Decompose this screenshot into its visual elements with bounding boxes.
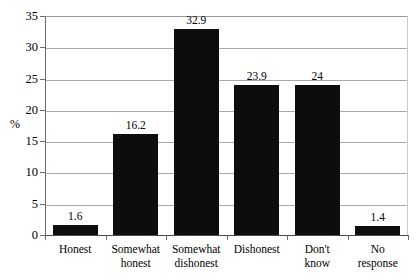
bar	[295, 85, 340, 235]
x-axis-tick-mark	[408, 235, 409, 240]
bar	[355, 226, 400, 235]
y-axis-tick-label: 30	[0, 41, 38, 54]
x-axis-tick-mark	[166, 235, 167, 240]
bar-value-label: 23.9	[227, 71, 288, 83]
y-axis-tick-label: 35	[0, 10, 38, 23]
bar-chart: % 35302520151050 1.616.232.923.9241.4 Ho…	[0, 0, 418, 280]
y-axis-tick-labels: 35302520151050	[0, 0, 38, 280]
bar-value-label: 32.9	[166, 15, 227, 27]
x-axis-category-label: Somewhat dishonest	[166, 243, 227, 270]
x-axis-tick-mark	[287, 235, 288, 240]
x-axis-category-label: No response	[348, 243, 409, 270]
x-axis-tick-mark	[227, 235, 228, 240]
y-axis-tick-label: 5	[0, 198, 38, 211]
x-axis-category-label: Somewhat honest	[106, 243, 167, 270]
x-axis-tick-mark	[348, 235, 349, 240]
y-axis-tick-label: 25	[0, 73, 38, 86]
y-axis-tick-label: 0	[0, 229, 38, 242]
y-axis-tick-label: 20	[0, 104, 38, 117]
bar-value-label: 16.2	[106, 120, 167, 132]
bars-layer	[45, 16, 408, 235]
bar-value-label: 1.4	[348, 212, 409, 224]
x-axis-tick-mark	[106, 235, 107, 240]
x-axis-tick-mark	[45, 235, 46, 240]
bar	[234, 85, 279, 235]
bar	[174, 29, 219, 235]
x-axis-category-label: Don't know	[287, 243, 348, 270]
bar	[113, 134, 158, 235]
bar-value-label: 1.6	[45, 211, 106, 223]
bar	[53, 225, 98, 235]
x-axis-category-label: Honest	[45, 243, 106, 257]
x-axis-category-label: Dishonest	[227, 243, 288, 257]
y-axis-tick-label: 15	[0, 135, 38, 148]
y-axis-tick-label: 10	[0, 166, 38, 179]
bar-value-label: 24	[287, 71, 348, 83]
